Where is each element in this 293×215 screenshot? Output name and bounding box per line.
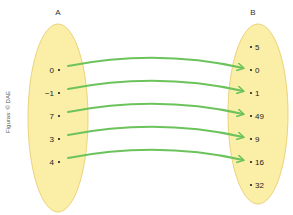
set-a-label: A bbox=[55, 8, 61, 17]
set-b-element: 1 bbox=[255, 89, 260, 98]
set-a-element: 0 bbox=[50, 66, 55, 75]
set-b-element: 49 bbox=[255, 112, 264, 121]
figure-credit: Figuras: © DAE bbox=[5, 91, 11, 133]
set-b-element: 0 bbox=[255, 66, 260, 75]
arrow-diagram: Figuras: © DAE A B 0 −1 7 3 4 5 0 1 49 9… bbox=[0, 0, 293, 215]
set-a-element: 4 bbox=[50, 158, 55, 167]
arrow-7-to-49 bbox=[68, 104, 243, 114]
set-a-element: −1 bbox=[45, 89, 55, 98]
set-b-element: 9 bbox=[255, 135, 260, 144]
set-a-ellipse bbox=[28, 24, 88, 212]
arrow-0-to-0 bbox=[68, 58, 243, 68]
arrow-neg1-to-1 bbox=[68, 81, 243, 91]
set-b-element: 5 bbox=[255, 43, 260, 52]
mapping-arrows bbox=[68, 58, 243, 160]
arrow-4-to-16 bbox=[68, 150, 243, 160]
set-b-element: 16 bbox=[255, 158, 264, 167]
arrow-3-to-9 bbox=[68, 127, 243, 137]
set-a-element: 7 bbox=[50, 112, 55, 121]
set-a-element: 3 bbox=[50, 135, 55, 144]
set-b-element: 32 bbox=[255, 181, 264, 190]
set-b-label: B bbox=[250, 8, 255, 17]
